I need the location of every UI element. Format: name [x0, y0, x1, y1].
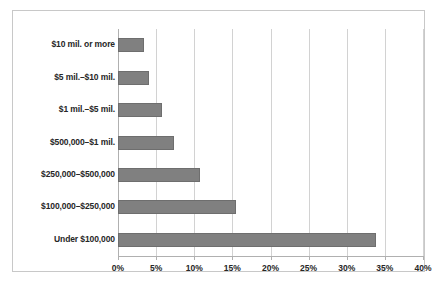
bar [118, 168, 200, 182]
bar [118, 103, 162, 117]
category-label: $10 mil. or more [23, 39, 115, 49]
tick-label: 30% [327, 263, 367, 273]
gridline-40pct [423, 29, 424, 256]
tick-label: 40% [403, 263, 437, 273]
bar [118, 38, 144, 52]
tick-label: 15% [212, 263, 252, 273]
tick-mark [347, 256, 348, 260]
chart-figure: $10 mil. or more$5 mil.–$10 mil.$1 mil.–… [0, 0, 437, 284]
gridline-30pct [347, 29, 348, 256]
gridline-35pct [385, 29, 386, 256]
tick-mark [309, 256, 310, 260]
tick-mark [194, 256, 195, 260]
plot-area [118, 29, 423, 256]
bar [118, 200, 236, 214]
category-label: $500,000–$1 mil. [23, 137, 115, 147]
category-label: $100,000–$250,000 [23, 201, 115, 211]
x-axis-tick-labels: 0%5%10%15%20%25%30%35%40% [118, 263, 423, 277]
tick-label: 20% [251, 263, 291, 273]
gridline-15pct [232, 29, 233, 256]
tick-mark [423, 256, 424, 260]
category-label: $5 mil.–$10 mil. [23, 72, 115, 82]
figure-frame: $10 mil. or more$5 mil.–$10 mil.$1 mil.–… [12, 10, 425, 272]
tick-label: 10% [174, 263, 214, 273]
category-label: Under $100,000 [23, 234, 115, 244]
bar [118, 136, 174, 150]
tick-mark [118, 256, 119, 260]
tick-mark [385, 256, 386, 260]
tick-label: 0% [98, 263, 138, 273]
bar [118, 71, 149, 85]
tick-mark [232, 256, 233, 260]
gridline-20pct [271, 29, 272, 256]
bar [118, 233, 376, 247]
tick-label: 5% [136, 263, 176, 273]
category-label: $1 mil.–$5 mil. [23, 104, 115, 114]
gridline-25pct [309, 29, 310, 256]
tick-mark [271, 256, 272, 260]
tick-label: 35% [365, 263, 405, 273]
x-axis-ticks [118, 256, 423, 261]
category-label: $250,000–$500,000 [23, 169, 115, 179]
tick-mark [156, 256, 157, 260]
gridline-10pct [194, 29, 195, 256]
category-axis-labels: $10 mil. or more$5 mil.–$10 mil.$1 mil.–… [18, 29, 115, 256]
tick-label: 25% [289, 263, 329, 273]
